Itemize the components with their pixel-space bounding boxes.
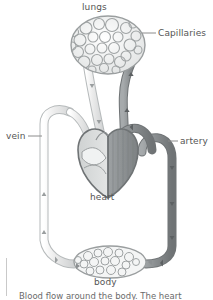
label-lungs: lungs xyxy=(82,2,107,13)
label-body: body xyxy=(94,277,117,288)
circulatory-system-figure: lungs Capillaries vein artery heart body… xyxy=(0,0,213,300)
circulatory-diagram xyxy=(0,0,213,300)
artery-vessel xyxy=(142,138,174,267)
caption-rule xyxy=(6,258,7,296)
label-vein: vein xyxy=(6,131,25,142)
label-artery: artery xyxy=(180,136,208,147)
body-capillary-network xyxy=(74,246,152,278)
lungs-capillary-network xyxy=(68,16,145,74)
label-heart: heart xyxy=(90,192,115,203)
vein-vessel xyxy=(42,110,74,264)
heart-organ xyxy=(78,124,138,200)
figure-caption: Blood flow around the body. The heart xyxy=(19,291,209,300)
label-capillaries: Capillaries xyxy=(158,28,206,39)
